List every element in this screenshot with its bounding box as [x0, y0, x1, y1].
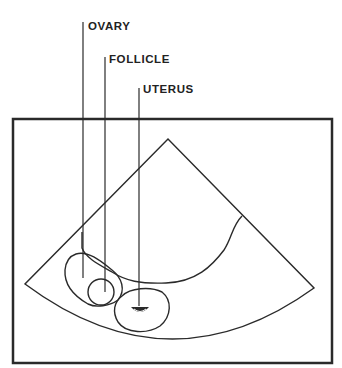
ultrasound-diagram: OVARY FOLLICLE UTERUS — [0, 0, 342, 368]
label-follicle: FOLLICLE — [109, 53, 170, 65]
label-ovary: OVARY — [88, 20, 131, 32]
follicle-shape — [88, 279, 114, 305]
image-frame — [13, 119, 332, 363]
bladder-outline — [82, 216, 242, 283]
label-uterus: UTERUS — [143, 83, 194, 95]
